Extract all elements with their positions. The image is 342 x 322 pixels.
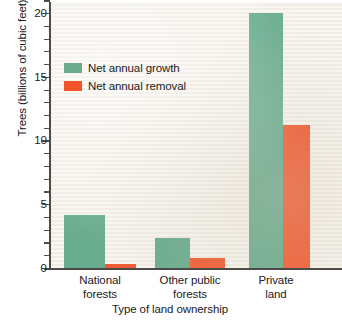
y-tick-minor-12: [44, 115, 50, 116]
x-category-line-2: land: [240, 287, 312, 301]
y-tick-minor-4: [44, 217, 50, 218]
y-tick-minor-6: [44, 191, 50, 192]
legend-entry-net-annual-removal: Net annual removal: [64, 79, 186, 93]
bar-growth-national-forests: [64, 215, 105, 268]
y-tick-minor-8: [44, 166, 50, 167]
legend-entry-net-annual-growth: Net annual growth: [64, 61, 186, 75]
y-tick-label-10: 10: [19, 135, 47, 147]
plot-area: [50, 2, 342, 268]
y-tick-minor-13: [44, 102, 50, 103]
x-category-line-1: National: [60, 273, 140, 287]
y-tick-label-0: 0: [19, 263, 47, 275]
bar-chart-figure: Trees (billions of cubic feet) 20 15 10 …: [0, 0, 342, 322]
y-tick-minor-9: [44, 153, 50, 154]
x-axis-line: [44, 268, 342, 270]
y-tick-label-15: 15: [19, 72, 47, 84]
y-tick-minor-7: [44, 179, 50, 180]
bar-growth-other-public-forests: [155, 238, 190, 268]
y-tick-minor-21: [44, 0, 50, 1]
x-category-label-national-forests: National forests: [60, 273, 140, 301]
x-category-label-private-land: Private land: [240, 273, 312, 301]
x-category-line-2: forests: [145, 287, 235, 301]
x-category-line-1: Private: [240, 273, 312, 287]
y-tick-minor-14: [44, 90, 50, 91]
legend-label-net-annual-growth: Net annual growth: [88, 62, 180, 74]
bar-growth-private-land: [249, 13, 283, 268]
y-tick-label-5: 5: [19, 199, 47, 211]
x-axis-title: Type of land ownership: [50, 303, 290, 315]
y-tick-minor-1: [44, 255, 50, 256]
x-category-label-other-public-forests: Other public forests: [145, 273, 235, 301]
y-tick-minor-19: [44, 26, 50, 27]
y-tick-minor-17: [44, 51, 50, 52]
x-category-line-1: Other public: [145, 273, 235, 287]
y-tick-minor-3: [44, 230, 50, 231]
orange-swatch-icon: [64, 81, 82, 91]
green-swatch-icon: [64, 63, 82, 73]
y-tick-minor-2: [44, 242, 50, 243]
legend-label-net-annual-removal: Net annual removal: [88, 80, 186, 92]
y-tick-minor-16: [44, 64, 50, 65]
y-axis-title: Trees (billions of cubic feet): [14, 0, 30, 183]
y-tick-label-20: 20: [19, 8, 47, 20]
x-category-line-2: forests: [60, 287, 140, 301]
y-tick-minor-18: [44, 39, 50, 40]
chart-legend: Net annual growth Net annual removal: [64, 61, 186, 93]
y-tick-minor-11: [44, 128, 50, 129]
bar-removal-other-public-forests: [190, 258, 225, 268]
bar-removal-private-land: [283, 125, 310, 268]
